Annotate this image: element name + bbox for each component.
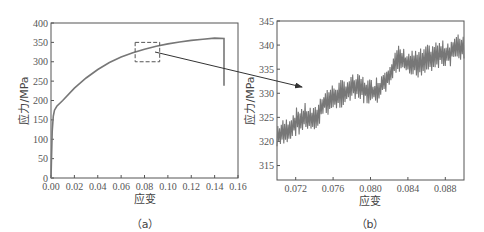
x-tick-label: 0.06 <box>112 181 130 192</box>
y-tick-label: 315 <box>259 160 274 171</box>
x-tick-label: 0.072 <box>284 183 307 194</box>
x-axis-label: 应变 <box>359 194 381 208</box>
y-tick-label: 150 <box>33 114 48 125</box>
y-tick-label: 400 <box>33 18 48 29</box>
x-tick-label: 0.08 <box>136 181 154 192</box>
y-axis-label: 应力/MPa <box>243 76 257 124</box>
figure: 0501001502002503003504000.000.020.040.06… <box>0 0 484 232</box>
panel-label: （b） <box>356 218 385 231</box>
y-tick-label: 320 <box>259 136 274 147</box>
y-tick-label: 350 <box>33 37 48 48</box>
stress-strain-line <box>51 38 224 178</box>
y-tick-label: 330 <box>259 88 274 99</box>
y-tick-label: 340 <box>259 40 274 51</box>
x-tick-label: 0.088 <box>434 183 457 194</box>
panel-label: （a） <box>131 218 160 231</box>
y-tick-label: 100 <box>33 134 48 145</box>
x-tick-label: 0.084 <box>397 183 420 194</box>
x-tick-label: 0.02 <box>66 181 84 192</box>
x-tick-label: 0.10 <box>159 181 177 192</box>
x-tick-label: 0.12 <box>183 181 201 192</box>
x-axis-label: 应变 <box>134 192 156 206</box>
y-axis-label: 应力/MPa <box>17 76 31 124</box>
y-tick-label: 200 <box>33 95 48 106</box>
plot-frame <box>51 23 238 178</box>
y-tick-label: 300 <box>33 56 48 67</box>
stress-strain-zoom-line <box>277 35 464 147</box>
y-tick-label: 335 <box>259 64 274 75</box>
stress-strain-charts: 0501001502002503003504000.000.020.040.06… <box>0 0 484 232</box>
x-tick-label: 0.16 <box>229 181 247 192</box>
x-tick-label: 0.080 <box>359 183 382 194</box>
x-tick-label: 0.076 <box>322 183 345 194</box>
x-tick-label: 0.04 <box>89 181 107 192</box>
x-tick-label: 0.14 <box>206 181 224 192</box>
y-tick-label: 345 <box>259 16 274 27</box>
y-tick-label: 250 <box>33 76 48 87</box>
y-tick-label: 325 <box>259 112 274 123</box>
y-tick-label: 50 <box>38 153 48 164</box>
x-tick-label: 0.00 <box>42 181 60 192</box>
